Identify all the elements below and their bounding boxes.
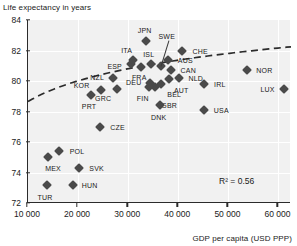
data-point-label: FIN — [137, 95, 149, 102]
data-point-label: HUN — [82, 181, 98, 188]
data-point-label: ITA — [121, 46, 132, 53]
y-tick-mark — [26, 80, 30, 81]
y-tick-label: 76 — [1, 137, 21, 147]
data-point-label: CHE — [193, 47, 208, 54]
x-tick-label: 50 000 — [214, 209, 240, 219]
data-point-label: GRC — [95, 94, 111, 101]
x-tick-label: 10 000 — [14, 209, 40, 219]
scatter-chart: Life expectancy in years GDP per capita … — [0, 0, 297, 246]
y-tick-label: 80 — [1, 76, 21, 86]
data-point-label: KOR — [74, 82, 90, 89]
data-point-label: PRT — [82, 102, 96, 109]
y-tick-label: 82 — [1, 46, 21, 56]
x-tick-label: 30 000 — [114, 209, 140, 219]
y-tick-label: 84 — [1, 15, 21, 25]
plot-area: TURMEXPOLHUNSVKCZEPRTKORGRCNZLESPITAFRAI… — [27, 20, 290, 203]
data-point-label: DEU — [126, 78, 141, 85]
data-point-label: AUT — [174, 87, 189, 94]
data-point-label: SVK — [89, 164, 104, 171]
y-axis-title: Life expectancy in years — [3, 3, 91, 12]
data-point-label: NZL — [90, 73, 104, 80]
data-point-label: SWE — [158, 32, 175, 39]
x-tick-label: 60 000 — [264, 209, 290, 219]
y-tick-mark — [26, 141, 30, 142]
data-point-label: MEX — [45, 165, 61, 172]
y-tick-label: 78 — [1, 107, 21, 117]
data-point-label: LUX — [260, 85, 274, 92]
x-tick-mark — [227, 203, 228, 207]
x-tick-mark — [177, 203, 178, 207]
x-tick-label: 40 000 — [164, 209, 190, 219]
x-tick-label: 20 000 — [64, 209, 90, 219]
data-point-label: CAN — [181, 67, 196, 74]
y-tick-mark — [26, 19, 30, 20]
x-axis-title: GDP per capita (USD PPP) — [192, 234, 292, 243]
data-point-label: ISL — [143, 51, 154, 58]
data-point-label: NOR — [256, 67, 272, 74]
y-tick-label: 72 — [1, 198, 21, 208]
y-tick-label: 74 — [1, 168, 21, 178]
y-tick-mark — [26, 50, 30, 51]
data-point-label: DNK — [151, 114, 166, 121]
x-tick-mark — [126, 203, 127, 207]
y-tick-mark — [26, 111, 30, 112]
data-point-label: JPN — [138, 27, 152, 34]
data-point-label: IRL — [214, 81, 226, 88]
x-tick-mark — [76, 203, 77, 207]
r-squared-annotation: R² = 0.56 — [219, 176, 254, 186]
data-point-label: POL — [70, 148, 85, 155]
data-point-label: CZE — [110, 123, 125, 130]
y-tick-mark — [26, 172, 30, 173]
data-point-label: ESP — [107, 63, 122, 70]
data-point-label: USA — [214, 106, 229, 113]
y-tick-mark — [26, 202, 30, 203]
data-point-label: TUR — [38, 193, 53, 200]
data-point-label: AUS — [178, 56, 193, 63]
x-tick-mark — [277, 203, 278, 207]
